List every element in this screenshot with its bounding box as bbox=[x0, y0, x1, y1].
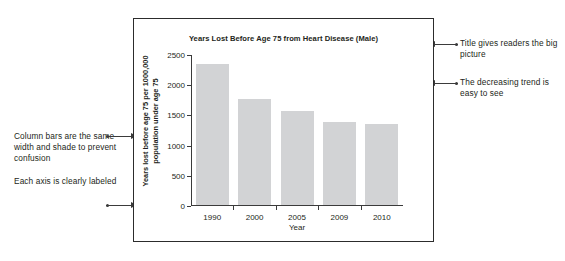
x-tick-mark bbox=[233, 206, 234, 210]
y-tick-label: 2000 bbox=[167, 81, 185, 90]
pointer-arrow-column-bars-icon bbox=[106, 133, 136, 140]
annotation-decreasing-trend: The decreasing trend is easy to see bbox=[460, 77, 565, 99]
bar-2005 bbox=[281, 111, 314, 205]
y-tick-label: 1500 bbox=[167, 111, 185, 120]
x-axis-label: Year bbox=[191, 223, 403, 232]
y-tick-mark bbox=[187, 176, 191, 177]
plot-area: 05001000150020002500 1990200020052009201… bbox=[191, 55, 403, 206]
x-tick-label-2010: 2010 bbox=[373, 213, 391, 222]
y-tick-label: 0 bbox=[181, 202, 185, 211]
x-tick-label-2009: 2009 bbox=[330, 213, 348, 222]
y-tick-mark bbox=[187, 115, 191, 116]
x-axis-line bbox=[191, 205, 403, 206]
x-tick-label-2005: 2005 bbox=[288, 213, 306, 222]
y-tick-mark bbox=[187, 206, 191, 207]
x-tick-mark bbox=[276, 206, 277, 210]
y-axis-label: Years lost before age 75 per 1000,000 po… bbox=[141, 37, 167, 205]
x-tick-label-2000: 2000 bbox=[246, 213, 264, 222]
x-tick-mark bbox=[361, 206, 362, 210]
y-tick-label: 500 bbox=[172, 171, 185, 180]
bar-1990 bbox=[196, 64, 229, 205]
pointer-arrow-trend-icon bbox=[430, 80, 458, 87]
annotation-title-big-picture: Title gives readers the big picture bbox=[460, 38, 565, 60]
y-tick-mark bbox=[187, 146, 191, 147]
x-tick-label-1990: 1990 bbox=[203, 213, 221, 222]
y-tick-label: 2500 bbox=[167, 51, 185, 60]
y-tick-mark bbox=[187, 85, 191, 86]
y-tick-label: 1000 bbox=[167, 141, 185, 150]
bar-2009 bbox=[323, 122, 356, 205]
bar-2000 bbox=[238, 99, 271, 205]
x-tick-mark bbox=[318, 206, 319, 210]
pointer-arrow-title-icon bbox=[430, 41, 458, 48]
figure-frame: Years Lost Before Age 75 from Heart Dise… bbox=[133, 18, 434, 242]
pointer-arrow-axis-labeled-icon bbox=[106, 202, 136, 209]
chart-title: Years Lost Before Age 75 from Heart Dise… bbox=[134, 34, 433, 43]
y-tick-mark bbox=[187, 55, 191, 56]
annotation-axis-labeled: Each axis is clearly labeled bbox=[14, 176, 130, 187]
bar-2010 bbox=[365, 124, 398, 205]
y-axis-line bbox=[191, 55, 192, 206]
